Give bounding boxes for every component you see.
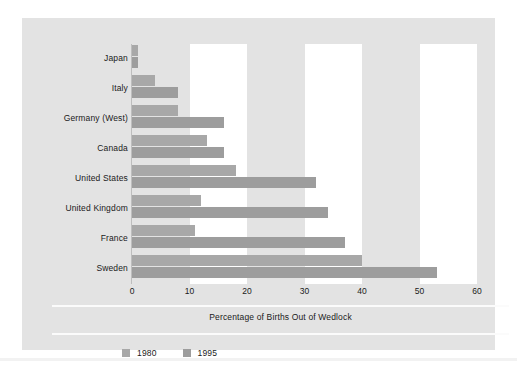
bar-group: [132, 44, 477, 74]
bar-group: [132, 164, 477, 194]
bottom-rule: [0, 358, 517, 361]
bar-1980: [132, 225, 195, 236]
bar-1980: [132, 75, 155, 86]
legend-swatch-icon: [183, 349, 191, 357]
bar-group: [132, 134, 477, 164]
x-tick-label: 40: [357, 286, 366, 296]
bar-1995: [132, 207, 328, 218]
bar-1980: [132, 195, 201, 206]
category-label: United States: [32, 173, 128, 183]
bar-1995: [132, 267, 437, 278]
x-tick-label: 0: [130, 286, 135, 296]
category-label: Italy: [32, 83, 128, 93]
bar-group: [132, 74, 477, 104]
legend-item: 1980: [122, 348, 157, 358]
category-label: Japan: [32, 53, 128, 63]
bar-1995: [132, 177, 316, 188]
chart-figure: JapanItalyGermany (West)CanadaUnited Sta…: [0, 0, 517, 371]
bar-group: [132, 254, 477, 284]
x-tick-label: 30: [300, 286, 309, 296]
category-label: Sweden: [32, 263, 128, 273]
x-tick-label: 10: [185, 286, 194, 296]
bar-1980: [132, 165, 236, 176]
bar-1980: [132, 135, 207, 146]
separator-bottom: [52, 333, 509, 335]
plot-area: [132, 44, 477, 284]
bar-1995: [132, 117, 224, 128]
category-label: France: [32, 233, 128, 243]
bar-1995: [132, 87, 178, 98]
legend-item: 1995: [183, 348, 218, 358]
x-tick-label: 60: [472, 286, 481, 296]
bar-1980: [132, 255, 362, 266]
category-label: Canada: [32, 143, 128, 153]
legend-label: 1980: [137, 348, 157, 358]
x-tick-label: 20: [242, 286, 251, 296]
category-label: United Kingdom: [32, 203, 128, 213]
bar-1980: [132, 45, 138, 56]
category-label: Germany (West): [32, 113, 128, 123]
legend-swatch-icon: [122, 349, 130, 357]
separator-top: [52, 305, 509, 307]
x-tick-label: 50: [415, 286, 424, 296]
bar-1980: [132, 105, 178, 116]
bar-1995: [132, 57, 138, 68]
bar-group: [132, 104, 477, 134]
legend-label: 1995: [198, 348, 218, 358]
bar-1995: [132, 237, 345, 248]
chart-panel: JapanItalyGermany (West)CanadaUnited Sta…: [22, 18, 495, 350]
bar-1995: [132, 147, 224, 158]
x-axis-title: Percentage of Births Out of Wedlock: [44, 312, 517, 322]
x-axis-ticks: 0102030405060: [132, 286, 477, 300]
bar-group: [132, 194, 477, 224]
category-labels: JapanItalyGermany (West)CanadaUnited Sta…: [30, 44, 128, 284]
bar-group: [132, 224, 477, 254]
